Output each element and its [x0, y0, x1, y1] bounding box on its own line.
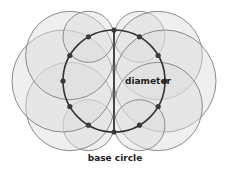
point-dot: [137, 34, 142, 39]
point-dot: [111, 27, 116, 32]
base-circle-label: base circle: [88, 153, 143, 163]
diameter-label: diameter: [125, 76, 171, 86]
point-dot: [86, 34, 91, 39]
point-dot: [86, 123, 91, 128]
point-dot: [67, 53, 72, 58]
point-dot: [60, 78, 65, 83]
nephroid-construction-diagram: diameter base circle: [0, 0, 229, 170]
point-dot: [111, 129, 116, 134]
point-dot: [137, 123, 142, 128]
point-dot: [67, 104, 72, 109]
point-dot: [156, 104, 161, 109]
point-dot: [156, 53, 161, 58]
